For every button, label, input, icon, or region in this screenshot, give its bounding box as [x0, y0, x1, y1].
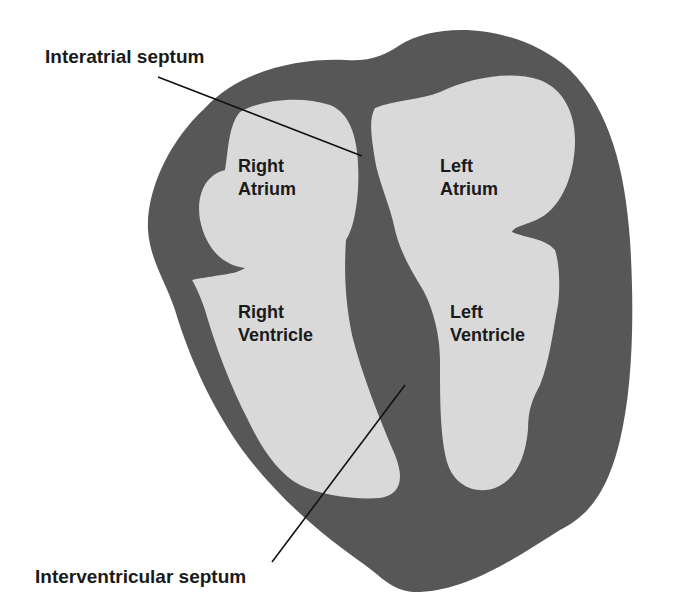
right-atrium-label-line1: Right	[238, 156, 284, 176]
left-ventricle-label-line1: Left	[450, 302, 483, 322]
left-ventricle-label-line2: Ventricle	[450, 325, 525, 345]
right-atrium-label-line2: Atrium	[238, 179, 296, 199]
left-atrium-label-line1: Left	[440, 156, 473, 176]
left-atrium-label-line2: Atrium	[440, 179, 498, 199]
interventricular-septum-label: Interventricular septum	[35, 566, 246, 587]
right-ventricle-label-line1: Right	[238, 302, 284, 322]
heart-diagram: Interatrial septum Interventricular sept…	[0, 0, 673, 614]
interatrial-septum-label: Interatrial septum	[45, 46, 204, 67]
right-ventricle-label-line2: Ventricle	[238, 325, 313, 345]
